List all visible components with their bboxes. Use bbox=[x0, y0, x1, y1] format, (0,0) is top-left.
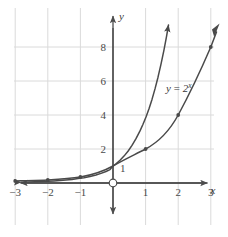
y-tick-label-2: 2 bbox=[101, 143, 107, 155]
x-tick-label-1: 1 bbox=[143, 186, 149, 198]
y-tick-label-1: 1 bbox=[120, 162, 126, 174]
y-tick-label-4: 4 bbox=[101, 109, 107, 121]
x-axis-label: x bbox=[210, 184, 216, 196]
y-tick-label-6: 6 bbox=[101, 75, 107, 87]
plot-canvas: −3 −2 −1 1 2 3 2 4 6 8 1 y x y = 2x bbox=[0, 0, 228, 237]
svg-text:y = 2x: y = 2x bbox=[165, 81, 192, 94]
y-tick-label-8: 8 bbox=[101, 41, 107, 53]
x-tick-label--3: −3 bbox=[9, 186, 21, 198]
x-tick-label--2: −2 bbox=[42, 186, 54, 198]
x-tick-label--1: −1 bbox=[75, 186, 87, 198]
curve-equation-exponent: x bbox=[187, 81, 192, 90]
y-axis-label: y bbox=[118, 10, 124, 22]
origin-marker-icon bbox=[109, 179, 117, 187]
curve-equation-base: y = 2 bbox=[165, 82, 189, 94]
x-tick-label-2: 2 bbox=[175, 186, 181, 198]
curve-equation-label: y = 2x bbox=[165, 81, 192, 94]
exponential-function-graph: −3 −2 −1 1 2 3 2 4 6 8 1 y x y = 2x bbox=[0, 0, 228, 237]
